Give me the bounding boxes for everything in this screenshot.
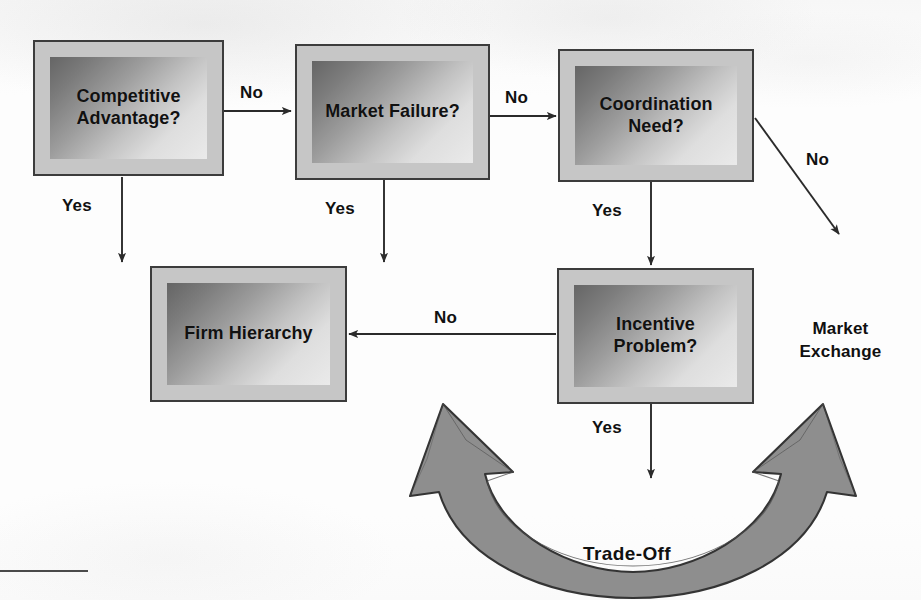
node-incentive-problem-label: Incentive Problem?	[574, 285, 737, 387]
footer-rule	[0, 570, 88, 572]
edge-label-ca-yes: Yes	[62, 196, 92, 216]
node-coordination-need-label: Coordination Need?	[575, 66, 737, 165]
outcome-market-exchange: Market Exchange	[778, 318, 903, 364]
edge-label-mf-yes: Yes	[325, 199, 355, 219]
tradeoff-label: Trade-Off	[583, 543, 671, 565]
node-market-failure-label: Market Failure?	[312, 61, 473, 163]
edge-label-ca-to-mf: No	[240, 83, 263, 103]
node-firm-hierarchy-label: Firm Hierarchy	[167, 283, 330, 385]
node-firm-hierarchy[interactable]: Firm Hierarchy	[150, 266, 347, 402]
node-incentive-problem[interactable]: Incentive Problem?	[557, 268, 754, 404]
node-competitive-advantage[interactable]: Competitive Advantage?	[33, 40, 224, 176]
node-market-failure[interactable]: Market Failure?	[295, 44, 490, 180]
edge-cn-no	[755, 118, 839, 234]
node-competitive-advantage-label: Competitive Advantage?	[50, 57, 207, 159]
edge-label-cn-no: No	[806, 150, 829, 170]
edge-label-ip-no: No	[434, 308, 457, 328]
edge-label-mf-to-cn: No	[505, 88, 528, 108]
diagram-canvas: Competitive Advantage? Market Failure? C…	[0, 0, 921, 600]
node-coordination-need[interactable]: Coordination Need?	[558, 49, 754, 182]
edge-label-cn-yes: Yes	[592, 201, 622, 221]
edge-label-ip-yes: Yes	[592, 418, 622, 438]
